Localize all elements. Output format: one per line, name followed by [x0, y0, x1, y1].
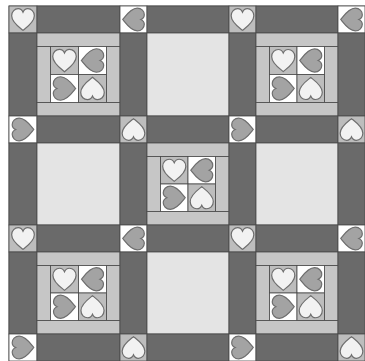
sashing-strip [147, 225, 229, 252]
heart-cell [51, 293, 79, 321]
sashing-strip [338, 143, 365, 225]
frame-strip-right [107, 266, 121, 321]
heart-cell [188, 184, 216, 212]
heart-cell [51, 47, 79, 75]
frame-strip-bottom [37, 103, 120, 117]
cornerstone [229, 6, 256, 33]
sashing-strip [120, 252, 147, 334]
frame-strip-top [37, 252, 120, 266]
sashing-strip [256, 116, 338, 143]
cornerstone [338, 116, 365, 143]
heart-cell [270, 75, 298, 103]
frame-strip-right [216, 157, 230, 212]
sashing-strip [256, 6, 338, 33]
heart-four-patch-block [256, 252, 338, 334]
sashing-strip [338, 252, 365, 334]
frame-strip-right [107, 47, 121, 103]
heart-cell [79, 47, 107, 75]
cornerstone [338, 334, 365, 361]
cornerstone [120, 116, 147, 143]
cornerstone [9, 6, 37, 33]
cornerstone [229, 334, 256, 361]
sashing-strip [120, 143, 147, 225]
sashing-strip [37, 225, 120, 252]
cornerstone [338, 6, 365, 33]
heart-four-patch-block [147, 143, 229, 225]
cornerstone [9, 225, 37, 252]
heart-cell [297, 266, 325, 294]
plain-block [256, 143, 338, 225]
heart-cell [79, 266, 107, 294]
frame-strip-left [256, 266, 270, 321]
sashing-strip [338, 33, 365, 116]
heart-cell [51, 75, 79, 103]
sashing-strip [229, 33, 256, 116]
sashing-strip [120, 33, 147, 116]
frame-strip-left [256, 47, 270, 103]
frame-strip-bottom [256, 103, 338, 117]
quilt-canvas [0, 0, 365, 361]
heart-cell [270, 293, 298, 321]
cornerstone [229, 116, 256, 143]
heart-four-patch-block [37, 252, 120, 334]
heart-cell [297, 47, 325, 75]
sashing-strip [9, 33, 37, 116]
heart-four-patch-block [37, 33, 120, 116]
frame-strip-right [325, 266, 339, 321]
sashing-strip [256, 225, 338, 252]
frame-strip-bottom [256, 321, 338, 335]
sashing-strip [37, 6, 120, 33]
heart-cell [188, 157, 216, 185]
plain-block [37, 143, 120, 225]
frame-strip-left [37, 47, 51, 103]
cornerstone [9, 334, 37, 361]
sashing-strip [37, 116, 120, 143]
sashing-strip [37, 334, 120, 361]
plain-block [147, 252, 229, 334]
sashing-strip [147, 334, 229, 361]
sashing-strip [9, 143, 37, 225]
frame-strip-left [147, 157, 161, 212]
sashing-strip [256, 334, 338, 361]
heart-cell [79, 75, 107, 103]
frame-strip-top [256, 33, 338, 47]
frame-strip-top [147, 143, 229, 157]
cornerstone [229, 225, 256, 252]
cornerstone [120, 334, 147, 361]
frame-strip-right [325, 47, 339, 103]
heart-cell [270, 47, 298, 75]
cornerstone [9, 116, 37, 143]
frame-strip-top [256, 252, 338, 266]
frame-strip-bottom [37, 321, 120, 335]
sashing-strip [147, 116, 229, 143]
frame-strip-bottom [147, 212, 229, 226]
cornerstone [338, 225, 365, 252]
heart-cell [51, 266, 79, 294]
heart-cell [161, 157, 189, 185]
sashing-strip [229, 143, 256, 225]
heart-cell [297, 75, 325, 103]
cornerstone [120, 6, 147, 33]
heart-cell [270, 266, 298, 294]
sashing-strip [229, 252, 256, 334]
heart-cell [161, 184, 189, 212]
heart-cell [79, 293, 107, 321]
heart-cell [297, 293, 325, 321]
plain-block [147, 33, 229, 116]
heart-four-patch-block [256, 33, 338, 116]
sashing-strip [9, 252, 37, 334]
frame-strip-top [37, 33, 120, 47]
sashing-strip [147, 6, 229, 33]
frame-strip-left [37, 266, 51, 321]
cornerstone [120, 225, 147, 252]
